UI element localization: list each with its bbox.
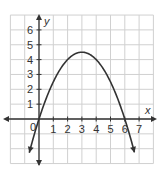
y-tick-label: 3 [27, 68, 33, 80]
origin-label: 0 [30, 121, 36, 133]
y-tick-label: 1 [27, 98, 33, 110]
x-axis-arrow-right-icon [151, 116, 157, 122]
y-tick-label: 2 [27, 83, 33, 95]
y-axis-arrow-down-icon [36, 160, 42, 166]
x-tick-label: 7 [136, 123, 142, 135]
x-tick-label: 4 [93, 123, 99, 135]
x-tick-label: 1 [50, 123, 56, 135]
ticks [37, 30, 140, 122]
y-tick-label: 5 [27, 39, 33, 51]
x-axis-arrow-left-icon [3, 116, 9, 122]
x-tick-label: 2 [65, 123, 71, 135]
y-axis-label: y [43, 15, 51, 27]
parabola-chart: 1234567123456 x y 0 [0, 0, 162, 173]
x-tick-label: 5 [107, 123, 113, 135]
x-tick-label: 3 [79, 123, 85, 135]
y-tick-label: 6 [27, 24, 33, 36]
x-axis-label: x [144, 104, 151, 116]
y-tick-label: 4 [27, 54, 33, 66]
